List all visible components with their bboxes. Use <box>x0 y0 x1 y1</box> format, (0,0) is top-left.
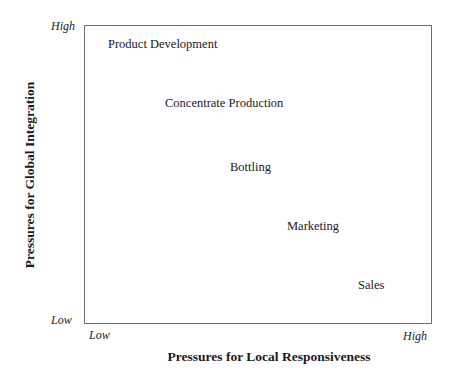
y-tick-high: High <box>51 19 75 34</box>
x-axis-title-container: Pressures for Local Responsiveness <box>0 347 454 365</box>
point-label-bottling: Bottling <box>230 160 271 175</box>
x-tick-high: High <box>403 329 427 344</box>
point-label-product-development: Product Development <box>108 37 217 52</box>
point-label-concentrate-production: Concentrate Production <box>165 96 283 111</box>
y-tick-low: Low <box>51 313 72 328</box>
point-label-marketing: Marketing <box>287 219 339 234</box>
y-axis-title: Pressures for Global Integration <box>22 82 38 268</box>
point-label-sales: Sales <box>358 278 384 293</box>
x-tick-low: Low <box>89 328 110 343</box>
x-axis-title: Pressures for Local Responsiveness <box>168 349 371 364</box>
